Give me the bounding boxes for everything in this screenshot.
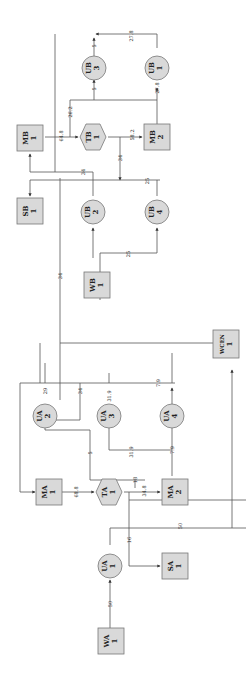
node-ua-1[interactable]: UA 1 [98,554,122,578]
node-ta-1[interactable]: TA 1 [96,479,122,505]
label-to-ub3: 5 [91,87,97,90]
label-ma2-ua4: 7.9 [169,446,175,454]
svg-text:1: 1 [174,563,183,568]
node-ua-2[interactable]: UA 2 [33,404,57,428]
svg-text:4: 4 [155,209,164,214]
label-tb1-split: 34 [117,155,123,161]
svg-text:2: 2 [43,413,52,418]
node-ub-4[interactable]: UB 4 [145,200,169,224]
label-ub2-out: 34 [80,169,86,175]
label-ma1-ta1: 68.8 [73,486,79,497]
svg-text:2: 2 [174,489,183,494]
svg-text:1: 1 [225,341,234,346]
label-ub4-out: 25 [144,178,150,184]
svg-text:1: 1 [96,282,105,287]
svg-text:1: 1 [29,135,38,140]
node-ma-2[interactable]: MA 2 [162,479,188,505]
label-ua1-wcen: 50 [177,523,183,529]
label-tb-recycle: 26.2 [67,106,73,117]
node-mb-2[interactable]: MB 2 [144,124,170,150]
svg-text:1: 1 [29,208,38,213]
node-ub-1[interactable]: UB 1 [145,56,169,80]
svg-text:3: 3 [107,413,116,418]
label-ua2-mid: 34 [77,388,83,394]
label-to-ua3: 31.9 [128,446,134,457]
node-mb-1[interactable]: MB 1 [17,125,43,151]
svg-text:4: 4 [170,413,179,418]
node-sb-1[interactable]: SB 1 [17,198,43,224]
label-ua-to-ub: 34 [57,273,63,279]
node-ua-3[interactable]: UA 3 [97,404,121,428]
label-ta1-ma2: 34.8 [141,485,147,496]
node-sa-1[interactable]: SA 1 [162,553,188,579]
process-flow-diagram: MB 1 TB 1 MB 2 UB 3 UB 1 SB 1 UB 2 UB 4 … [0,0,246,683]
label-wa1-ua1: 50 [107,601,113,607]
svg-text:1: 1 [110,638,119,643]
label-ub3-out: 5 [91,44,97,47]
svg-text:2: 2 [156,134,165,139]
node-ua-4[interactable]: UA 4 [160,404,184,428]
label-mb1-tb1: 64.8 [58,130,64,141]
node-ma-1[interactable]: MA 1 [36,479,62,505]
node-ub-2[interactable]: UB 2 [81,200,105,224]
node-wb-1[interactable]: WB 1 [84,272,110,298]
node-ub-3[interactable]: UB 3 [82,56,106,80]
node-tb-1[interactable]: TB 1 [80,124,106,150]
svg-text:3: 3 [92,65,101,70]
svg-text:1: 1 [92,134,101,139]
label-ub1-out: 27.8 [128,30,134,41]
svg-text:2: 2 [91,209,100,214]
label-wb1-ub4: 25 [125,251,131,257]
edge-labels: 27.8 5 5 27.8 26.2 64.8 58.2 34 34 25 25… [42,30,183,607]
svg-text:1: 1 [108,563,117,568]
label-tb1-mb2: 58.2 [129,129,135,140]
label-ua2-in: 29 [42,388,48,394]
label-ta1-sa1: 18 [132,477,138,483]
node-wa-1[interactable]: WA 1 [98,628,124,654]
label-ua4-out: 7.9 [155,379,161,387]
svg-text:1: 1 [108,489,117,494]
svg-text:1: 1 [155,65,164,70]
node-wcen-1[interactable]: WCEN 1 [213,330,239,358]
label-ua2-loop: 5 [87,451,93,454]
svg-text:1: 1 [48,489,57,494]
label-ua3-out: 31.9 [106,390,112,401]
label-ua1-split: 16 [126,537,132,543]
label-mb2-ub1: 27.8 [154,82,160,93]
